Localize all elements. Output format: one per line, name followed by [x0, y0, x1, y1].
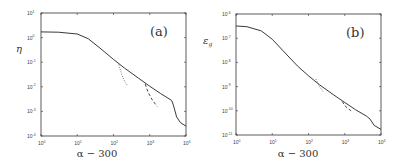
x-tick-label: 102: [111, 140, 119, 147]
x-tick-label: 103: [342, 139, 350, 146]
figure: 10010110210310410110010-110-210-310-4 (a…: [0, 0, 399, 166]
panel-b-dotted-curve: [316, 79, 324, 92]
y-tick-label: 10-4: [27, 133, 36, 140]
y-tick-label: 10-7: [222, 35, 231, 42]
x-tick-label: 101: [269, 139, 277, 146]
panel-b-ylabel: εg: [203, 35, 212, 48]
y-tick-label: 10-3: [27, 108, 36, 115]
panel-a-ylabel: η: [16, 43, 22, 54]
panel-a-xlabel: α − 300: [77, 148, 118, 159]
x-tick-label: 100: [38, 140, 46, 147]
panel-b: 10010110210310410-610-710-810-910-1010-1…: [203, 11, 386, 160]
x-tick-label: 100: [233, 139, 241, 146]
panel-b-xlabel: α − 300: [278, 148, 319, 159]
panel-a-label: (a): [150, 24, 168, 39]
y-tick-label: 10-11: [222, 132, 232, 139]
y-tick-label: 10-6: [222, 11, 231, 18]
x-tick-label: 104: [378, 139, 386, 146]
panel-a: 10010110210310410110010-110-210-310-4 (a…: [16, 10, 191, 160]
y-tick-label: 10-2: [27, 83, 36, 90]
y-tick-label: 100: [27, 34, 35, 41]
panel-a-solid-curve: [41, 32, 186, 126]
y-tick-label: 10-1: [27, 59, 36, 66]
y-tick-label: 10-10: [222, 107, 233, 114]
y-tick-label: 10-8: [222, 59, 231, 66]
panel-b-label: (b): [346, 25, 364, 40]
panel-b-solid-curve: [236, 26, 381, 129]
x-tick-label: 104: [183, 140, 191, 147]
panel-b-ylabel-sub: g: [208, 40, 212, 48]
y-tick-label: 10-9: [222, 83, 231, 90]
y-tick-label: 101: [27, 10, 35, 17]
x-tick-label: 101: [74, 140, 82, 147]
x-tick-label: 102: [306, 139, 314, 146]
x-tick-label: 103: [147, 140, 155, 147]
